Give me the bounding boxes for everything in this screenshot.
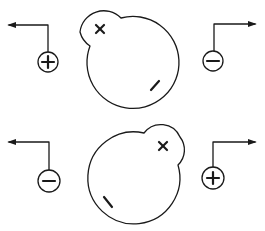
left-arrow-line [9, 25, 48, 52]
minus-terminal-icon [203, 51, 223, 71]
top-blob-outline [80, 11, 179, 109]
negative-dash-mark-icon [104, 197, 112, 207]
negative-dash-mark-icon [151, 81, 159, 90]
top-panel [9, 11, 255, 109]
bottom-panel [9, 125, 255, 224]
right-arrow-line [214, 24, 255, 51]
dipole-diagram: + − − + × × [0, 0, 265, 231]
cross-mark-icon [96, 25, 104, 33]
bottom-blob-outline [88, 125, 185, 224]
plus-terminal-icon [38, 52, 58, 72]
minus-terminal-icon [38, 170, 60, 192]
cross-mark-icon [159, 142, 167, 150]
plus-terminal-icon [202, 167, 224, 189]
left-arrow-line [9, 142, 49, 170]
right-arrow-line [213, 142, 255, 167]
